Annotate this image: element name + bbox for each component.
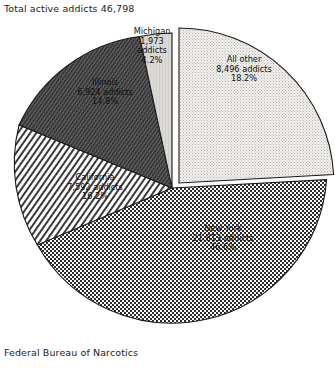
pie-chart-figure: Total active addicts 46,798	[0, 0, 335, 368]
pie-svg	[0, 0, 335, 368]
pie-slice-all-other[interactable]	[179, 28, 334, 183]
chart-source-caption: Federal Bureau of Narcotics	[4, 347, 138, 358]
pie-slices	[14, 28, 333, 323]
